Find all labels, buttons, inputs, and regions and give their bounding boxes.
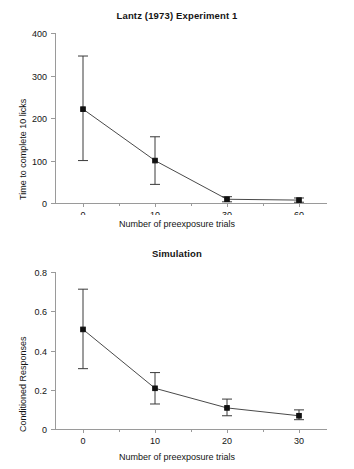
data-line-top — [83, 109, 299, 200]
y-ticklabel-200: 200 — [32, 114, 47, 124]
y-ticklabel-300: 300 — [32, 72, 47, 82]
data-point-marker — [81, 327, 86, 332]
x-ticklabel-b0: 0 — [80, 436, 85, 446]
data-markers-top — [81, 107, 302, 203]
plot-area-top: 400 300 200 100 0 0 10 30 60 — [0, 0, 354, 215]
y-ticklabel-0b: 0 — [42, 425, 47, 435]
y-ticklabel-100: 100 — [32, 157, 47, 167]
error-bars-bottom — [78, 289, 304, 420]
data-point-marker — [225, 406, 230, 411]
panel-lantz-experiment: Lantz (1973) Experiment 1 Time to comple… — [0, 0, 354, 235]
y-ticklabel-0p6: 0.6 — [34, 307, 47, 317]
data-line-bottom — [83, 329, 299, 415]
panel-simulation: Simulation Conditioned Responses 0.8 0.6… — [0, 235, 354, 469]
y-ticklabel-0p4: 0.4 — [34, 347, 47, 357]
x-axis-label-bottom: Number of preexposure trials — [0, 452, 354, 462]
y-ticklabel-0p8: 0.8 — [34, 268, 47, 278]
x-ticklabel-60: 60 — [294, 210, 304, 215]
data-markers-bottom — [81, 327, 302, 418]
x-ticklabel-0: 0 — [80, 210, 85, 215]
x-ticklabel-30: 30 — [222, 210, 232, 215]
y-ticklabel-400: 400 — [32, 29, 47, 39]
data-point-marker — [153, 386, 158, 391]
data-point-marker — [225, 197, 230, 202]
x-ticklabel-b20: 20 — [222, 436, 232, 446]
y-ticklabel-0: 0 — [42, 199, 47, 209]
x-ticklabel-b30: 30 — [294, 436, 304, 446]
x-ticklabel-10: 10 — [150, 210, 160, 215]
y-ticklabel-0p2: 0.2 — [34, 386, 47, 396]
data-point-marker — [297, 198, 302, 203]
data-point-marker — [81, 107, 86, 112]
x-axis-label-top: Number of preexposure trials — [0, 219, 354, 229]
x-ticklabel-b10: 10 — [150, 436, 160, 446]
plot-area-bottom: 0.8 0.6 0.4 0.2 0 0 10 20 30 — [0, 235, 354, 449]
data-point-marker — [153, 158, 158, 163]
figure-container: Lantz (1973) Experiment 1 Time to comple… — [0, 0, 354, 469]
data-point-marker — [297, 413, 302, 418]
